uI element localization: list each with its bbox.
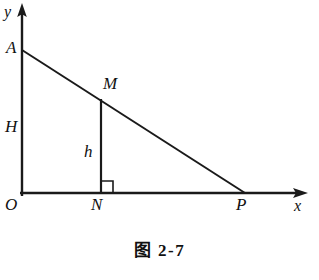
annotation-label-H: H	[5, 118, 17, 135]
segment-ap	[22, 50, 245, 193]
figure-container: y x O A M N P H h 图 2-7	[0, 0, 319, 280]
figure-caption: 图 2-7	[0, 236, 319, 261]
x-axis-label: x	[294, 198, 301, 214]
point-label-n: N	[91, 196, 102, 213]
point-label-m: M	[103, 75, 117, 92]
right-angle-marker	[101, 181, 113, 193]
point-label-a: A	[6, 39, 16, 56]
point-label-o: O	[5, 196, 17, 213]
y-axis-label: y	[4, 4, 11, 20]
annotation-label-h: h	[84, 143, 93, 160]
point-label-p: P	[236, 196, 246, 213]
